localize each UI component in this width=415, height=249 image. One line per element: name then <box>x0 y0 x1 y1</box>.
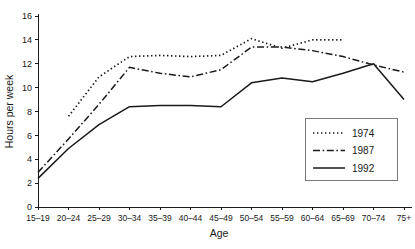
y-tick-label: 4 <box>27 154 32 164</box>
x-tick-label: 60–64 <box>301 213 325 223</box>
x-tick-label: 45–49 <box>209 213 233 223</box>
x-tick-label: 75+ <box>397 213 411 223</box>
y-tick-label: 6 <box>27 131 32 141</box>
y-tick-label: 10 <box>22 83 32 93</box>
y-tick-label: 0 <box>27 202 32 212</box>
legend-label-1987: 1987 <box>352 145 375 156</box>
x-tick-label: 40–44 <box>179 213 203 223</box>
x-tick-label: 30–34 <box>118 213 142 223</box>
y-tick-label: 2 <box>27 178 32 188</box>
x-tick-label: 25–29 <box>87 213 111 223</box>
line-chart: 024681012141615–1920–2425–2930–3435–3940… <box>0 0 415 249</box>
x-tick-label: 70–74 <box>362 213 386 223</box>
x-tick-label: 55–59 <box>270 213 294 223</box>
x-tick-label: 20–24 <box>57 213 81 223</box>
x-tick-label: 15–19 <box>26 213 50 223</box>
y-tick-label: 16 <box>22 11 32 21</box>
legend-label-1974: 1974 <box>352 128 375 139</box>
x-tick-label: 35–39 <box>148 213 172 223</box>
x-tick-label: 50–54 <box>240 213 264 223</box>
y-tick-label: 12 <box>22 59 32 69</box>
y-tick-label: 8 <box>27 107 32 117</box>
series-line-1992 <box>38 64 404 179</box>
legend-label-1992: 1992 <box>352 163 375 174</box>
x-axis-title: Age <box>210 227 229 239</box>
chart-container: 024681012141615–1920–2425–2930–3435–3940… <box>0 0 415 249</box>
y-axis-title: Hours per week <box>3 74 15 148</box>
series-line-1987 <box>38 47 404 172</box>
legend-box <box>305 118 397 180</box>
x-tick-label: 65–69 <box>331 213 355 223</box>
y-tick-label: 14 <box>22 35 32 45</box>
series-line-1974 <box>69 39 344 117</box>
